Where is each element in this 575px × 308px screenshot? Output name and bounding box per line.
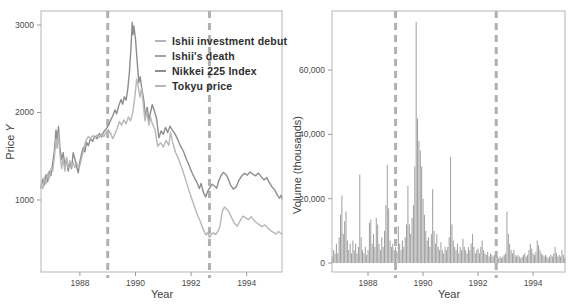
legend: Ishii investment debut Ishii's death Nik…	[155, 33, 287, 93]
x-tick-label: 1992	[469, 278, 488, 288]
tokyu-price-line	[41, 79, 282, 237]
price-y-axis-label-var: Y	[4, 124, 16, 131]
volume-y-axis-label: Volume (thousands)	[291, 116, 303, 214]
legend-label: Ishii investment debut	[172, 35, 287, 47]
x-tick-label: 1994	[524, 278, 543, 288]
x-tick-label: 1990	[414, 278, 433, 288]
y-tick-label: 3000	[15, 20, 34, 30]
volume-x-axis-label: Year	[438, 288, 460, 300]
y-tick-label: 0	[320, 258, 325, 268]
panel-frame	[332, 11, 565, 272]
x-tick-label: 1994	[237, 278, 256, 288]
price-x-axis-label: Year	[151, 288, 173, 300]
x-tick-label: 1992	[182, 278, 201, 288]
x-tick-label: 1990	[126, 278, 145, 288]
price-y-axis-label-text: Price	[4, 135, 16, 160]
legend-item-ishii-investment-debut: Ishii investment debut	[155, 33, 287, 48]
volume-bars	[332, 22, 564, 263]
dual-panel-stock-figure: 1988199019921994100020003000198819901992…	[0, 0, 575, 308]
legend-label: Ishii's death	[172, 50, 235, 62]
x-tick-label: 1988	[359, 278, 378, 288]
legend-item-ishiis-death: Ishii's death	[155, 48, 287, 63]
y-tick-label: 60,000	[299, 65, 325, 75]
legend-label: Nikkei 225 Index	[172, 65, 257, 77]
y-tick-label: 2000	[15, 107, 34, 117]
legend-swatch-line-icon	[155, 55, 166, 57]
legend-swatch-line-icon	[155, 70, 166, 72]
x-tick-label: 1988	[70, 278, 89, 288]
legend-item-nikkei-225-index: Nikkei 225 Index	[155, 63, 287, 78]
legend-item-tokyu-price: Tokyu price	[155, 78, 287, 93]
price-y-axis-label: PriceY	[4, 124, 16, 159]
legend-swatch-line-icon	[155, 40, 166, 42]
volume-panel: 1988199019921994020,00040,00060,000	[299, 11, 565, 288]
legend-swatch-line-icon	[155, 85, 166, 87]
legend-label: Tokyu price	[172, 80, 232, 92]
y-tick-label: 1000	[15, 195, 34, 205]
chart-canvas: 1988199019921994100020003000198819901992…	[0, 0, 575, 308]
